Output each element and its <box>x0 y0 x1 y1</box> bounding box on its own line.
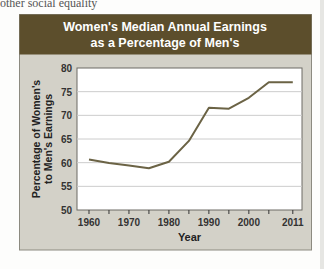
x-tick-label: 2000 <box>238 217 261 228</box>
x-tick-label: 1980 <box>158 217 181 228</box>
chart-title-line-2: as a Percentage of Men's <box>91 36 240 50</box>
chart-title-line-1: Women's Median Annual Earnings <box>63 20 267 34</box>
y-tick-label: 55 <box>61 181 73 192</box>
x-tick-label: 2011 <box>282 217 304 228</box>
line-chart: Women's Median Annual Earnings as a Perc… <box>0 0 324 269</box>
y-tick-label: 65 <box>61 134 73 145</box>
x-tick-label: 1990 <box>198 217 221 228</box>
y-tick-label: 80 <box>61 63 73 74</box>
x-tick-label: 1970 <box>118 217 141 228</box>
y-tick-label: 60 <box>61 158 73 169</box>
y-axis-label-line: Percentage of Women's <box>30 80 42 199</box>
y-tick-label: 50 <box>61 205 73 216</box>
y-tick-label: 75 <box>61 87 73 98</box>
y-axis-label-line: to Men's Earnings <box>42 94 54 184</box>
x-tick-label: 1960 <box>78 217 101 228</box>
y-tick-label: 70 <box>61 110 73 121</box>
x-axis-label: Year <box>178 231 202 243</box>
